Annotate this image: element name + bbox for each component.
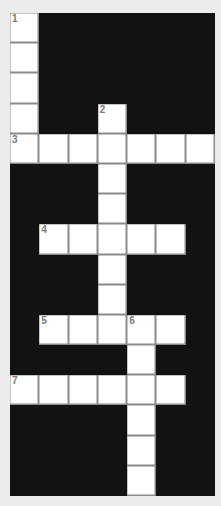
crossword-cell[interactable]	[98, 134, 127, 164]
clue-number: 4	[41, 225, 47, 235]
crossword-cell[interactable]: 2	[98, 104, 127, 134]
crossword-cell[interactable]	[127, 375, 156, 405]
crossword-cell[interactable]	[98, 255, 127, 285]
block-cell	[39, 13, 68, 43]
crossword-grid: 1234567	[10, 13, 215, 496]
block-cell	[156, 43, 185, 73]
block-cell	[98, 436, 127, 466]
block-cell	[98, 405, 127, 435]
crossword-cell[interactable]	[127, 436, 156, 466]
block-cell	[39, 345, 68, 375]
crossword-cell[interactable]	[156, 134, 185, 164]
block-cell	[127, 73, 156, 103]
block-cell	[186, 466, 215, 496]
crossword-cell[interactable]	[98, 285, 127, 315]
block-cell	[10, 194, 39, 224]
block-cell	[10, 436, 39, 466]
block-cell	[186, 104, 215, 134]
crossword-cell[interactable]	[127, 224, 156, 254]
block-cell	[39, 466, 68, 496]
crossword-cell[interactable]	[127, 466, 156, 496]
block-cell	[10, 285, 39, 315]
block-cell	[127, 255, 156, 285]
clue-number: 5	[41, 316, 47, 326]
crossword-cell[interactable]	[69, 134, 98, 164]
crossword-cell[interactable]	[156, 224, 185, 254]
crossword-cell[interactable]	[98, 194, 127, 224]
block-cell	[186, 285, 215, 315]
block-cell	[127, 285, 156, 315]
crossword-cell[interactable]	[98, 164, 127, 194]
block-cell	[69, 43, 98, 73]
block-cell	[127, 13, 156, 43]
crossword-cell[interactable]	[39, 134, 68, 164]
block-cell	[127, 43, 156, 73]
crossword-cell[interactable]: 6	[127, 315, 156, 345]
crossword-cell[interactable]: 4	[39, 224, 68, 254]
block-cell	[69, 255, 98, 285]
crossword-cell[interactable]	[69, 375, 98, 405]
crossword-cell[interactable]	[39, 375, 68, 405]
block-cell	[127, 194, 156, 224]
block-cell	[186, 255, 215, 285]
crossword-cell[interactable]	[156, 315, 185, 345]
crossword-cell[interactable]	[98, 224, 127, 254]
block-cell	[69, 164, 98, 194]
block-cell	[156, 285, 185, 315]
block-cell	[156, 255, 185, 285]
crossword-cell[interactable]	[127, 134, 156, 164]
block-cell	[69, 13, 98, 43]
block-cell	[39, 73, 68, 103]
block-cell	[156, 13, 185, 43]
block-cell	[186, 405, 215, 435]
crossword-cell[interactable]	[98, 375, 127, 405]
block-cell	[98, 43, 127, 73]
block-cell	[186, 345, 215, 375]
crossword-cell[interactable]: 5	[39, 315, 68, 345]
crossword-cell[interactable]	[186, 134, 215, 164]
block-cell	[186, 436, 215, 466]
crossword-cell[interactable]: 7	[10, 375, 39, 405]
block-cell	[69, 466, 98, 496]
block-cell	[39, 43, 68, 73]
block-cell	[10, 164, 39, 194]
crossword-cell[interactable]	[69, 224, 98, 254]
block-cell	[186, 224, 215, 254]
crossword-cell[interactable]	[10, 43, 39, 73]
crossword-cell[interactable]	[69, 315, 98, 345]
block-cell	[39, 405, 68, 435]
block-cell	[186, 315, 215, 345]
block-cell	[69, 436, 98, 466]
block-cell	[10, 255, 39, 285]
block-cell	[186, 73, 215, 103]
block-cell	[156, 345, 185, 375]
clue-number: 3	[12, 135, 18, 145]
block-cell	[69, 104, 98, 134]
block-cell	[39, 194, 68, 224]
block-cell	[98, 466, 127, 496]
block-cell	[98, 345, 127, 375]
block-cell	[156, 436, 185, 466]
block-cell	[98, 13, 127, 43]
crossword-cell[interactable]: 3	[10, 134, 39, 164]
block-cell	[186, 164, 215, 194]
block-cell	[39, 104, 68, 134]
crossword-cell[interactable]	[98, 315, 127, 345]
clue-number: 1	[12, 14, 18, 24]
block-cell	[186, 43, 215, 73]
block-cell	[39, 285, 68, 315]
block-cell	[186, 375, 215, 405]
block-cell	[156, 104, 185, 134]
block-cell	[10, 405, 39, 435]
crossword-cell[interactable]: 1	[10, 13, 39, 43]
crossword-cell[interactable]	[10, 73, 39, 103]
crossword-cell[interactable]	[10, 104, 39, 134]
block-cell	[186, 13, 215, 43]
crossword-cell[interactable]	[156, 375, 185, 405]
block-cell	[156, 466, 185, 496]
crossword-cell[interactable]	[127, 345, 156, 375]
block-cell	[39, 255, 68, 285]
block-cell	[156, 164, 185, 194]
crossword-cell[interactable]	[127, 405, 156, 435]
clue-number: 2	[100, 105, 106, 115]
